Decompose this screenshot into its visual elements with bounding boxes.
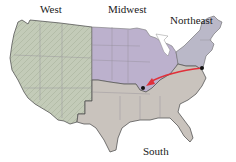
region-west [10, 20, 92, 124]
label-west: West [40, 4, 62, 15]
label-northeast: Northeast [170, 15, 213, 26]
label-midwest: Midwest [108, 4, 147, 15]
destination-marker [141, 86, 145, 90]
label-south: South [143, 146, 169, 157]
origin-marker [200, 66, 204, 70]
us-regions-map: West Midwest Northeast South [0, 0, 236, 162]
